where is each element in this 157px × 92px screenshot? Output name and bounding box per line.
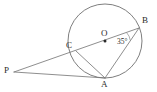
geometry-figure: P C A B O 35°: [0, 0, 157, 92]
center-dot-o: [104, 40, 107, 43]
secant-line-pb: [14, 28, 139, 72]
point-label-o: O: [101, 29, 108, 38]
point-label-c: C: [66, 41, 72, 50]
chord-ac: [76, 51, 105, 78]
point-label-p: P: [4, 66, 9, 75]
geometry-canvas: [0, 0, 157, 92]
point-label-a: A: [101, 80, 108, 89]
chord-ab: [105, 28, 139, 78]
point-label-b: B: [142, 16, 148, 25]
angle-label-35: 35°: [117, 38, 128, 46]
